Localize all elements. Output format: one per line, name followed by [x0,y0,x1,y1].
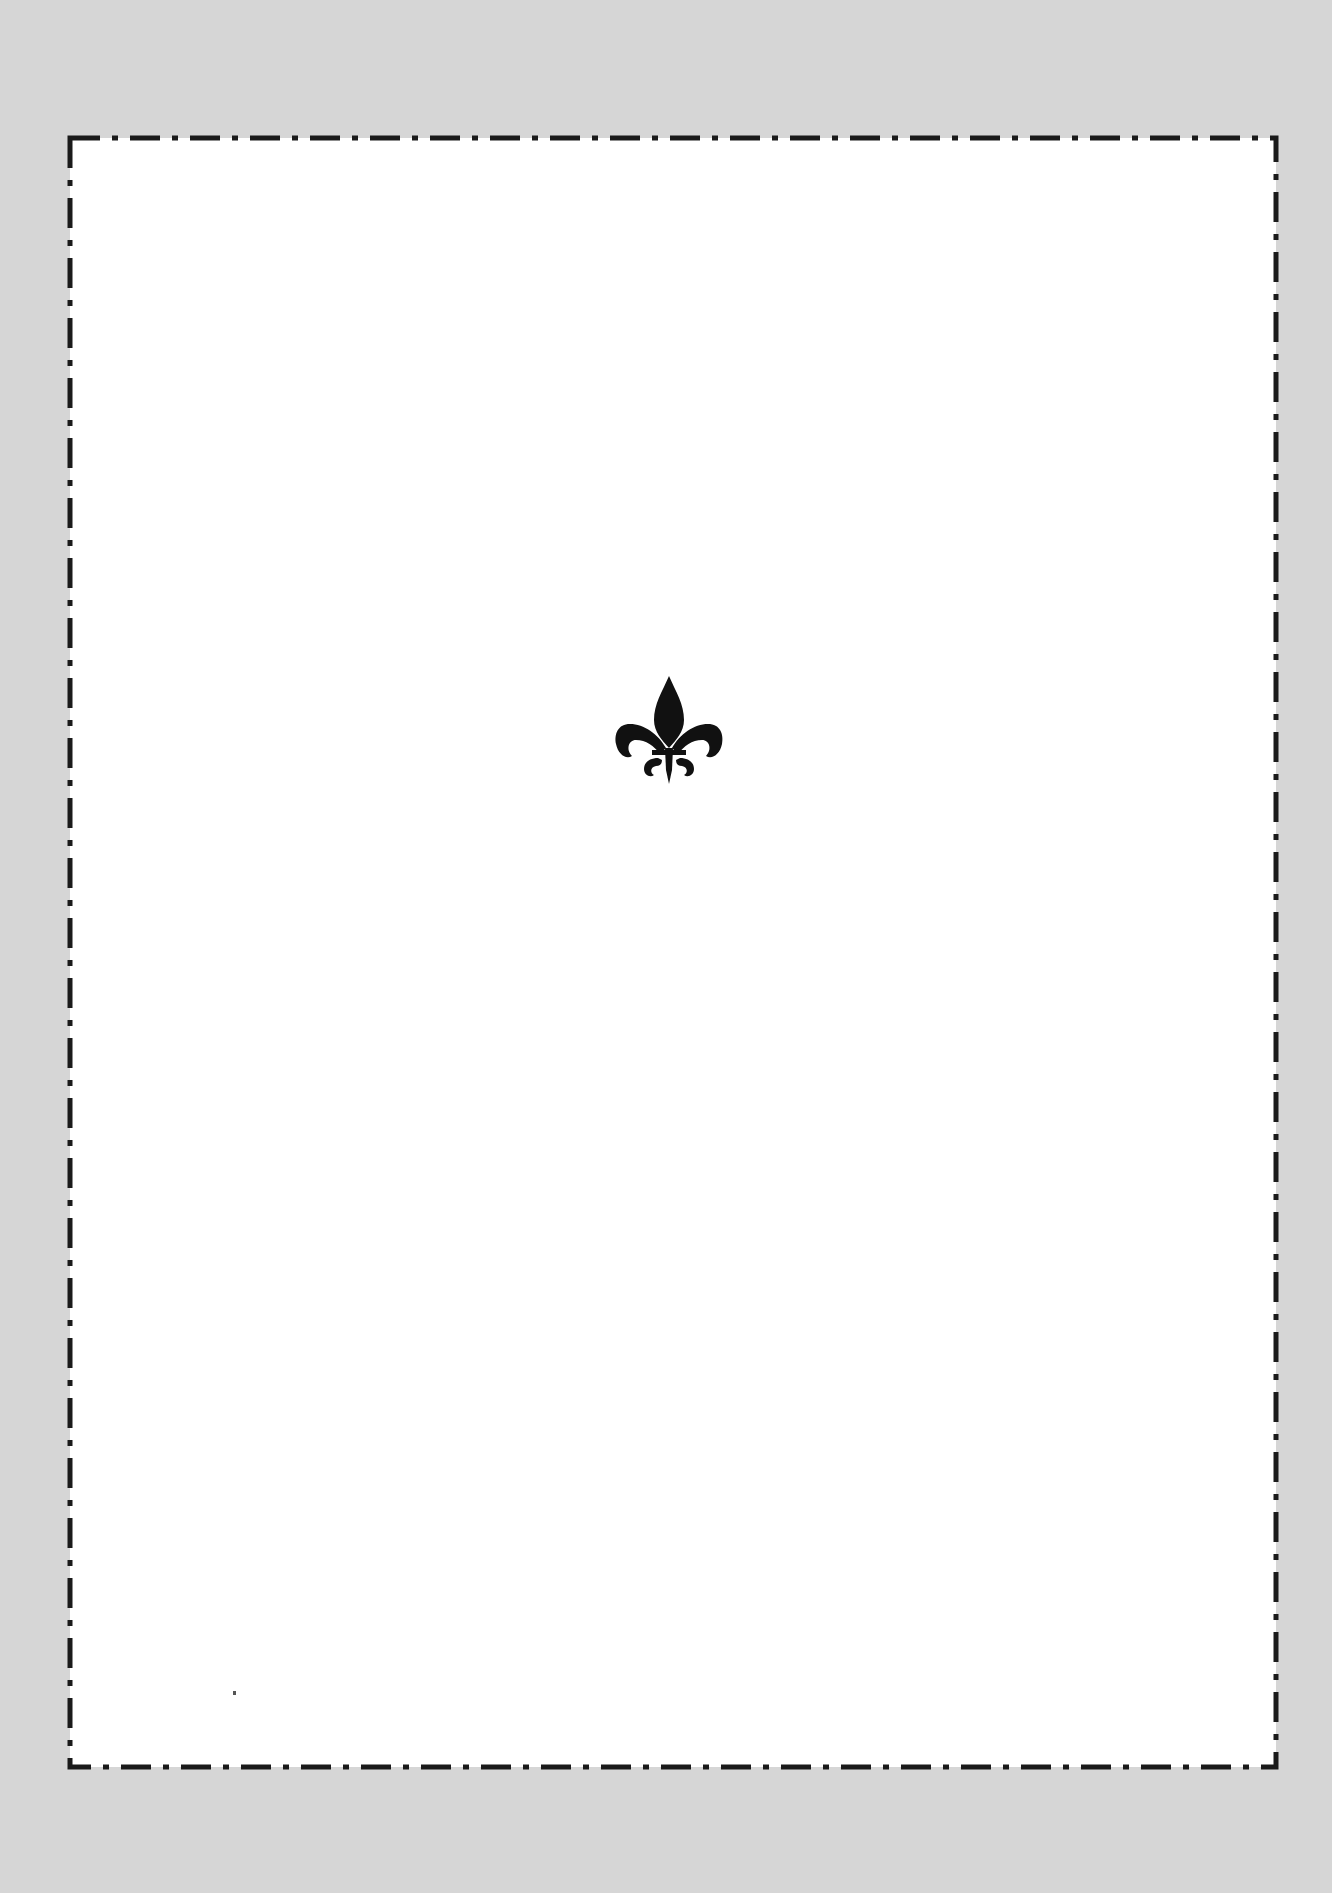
fleur-de-lis-icon [614,674,724,786]
scan-speck [233,1691,236,1695]
fleur-center-petal [654,676,684,748]
fleur-left-curl [644,758,662,776]
fleur-stem [665,748,673,784]
fleur-right-curl [676,758,694,776]
dash-dot-border [66,134,1280,1771]
